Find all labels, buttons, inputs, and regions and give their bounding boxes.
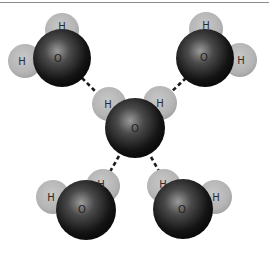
water-molecule-top-left: H H O [8,13,91,87]
hydrogen-label: H [202,20,210,31]
hydrogen-label: H [212,192,220,203]
oxygen-label: O [200,52,208,63]
oxygen-atom [56,180,116,240]
oxygen-label: O [131,123,139,134]
hydrogen-label: H [237,55,245,66]
water-molecule-bottom-left: H H O [36,169,120,240]
water-molecule-bottom-right: H H O [147,169,232,239]
oxygen-label: O [54,53,62,64]
hydrogen-label: H [97,179,105,190]
oxygen-label: O [78,204,86,215]
hydrogen-label: H [18,56,26,67]
hydrogen-label: H [104,99,112,110]
hydrogen-label: H [47,192,55,203]
oxygen-atom [33,29,91,87]
oxygen-label: O [178,204,186,215]
water-hydrogen-bond-diagram: H H O H H O H H O H H O H H O [0,0,269,257]
hydrogen-label: H [156,98,164,109]
hydrogen-label: H [159,179,167,190]
hydrogen-label: H [58,21,66,32]
water-molecule-top-right: H H O [176,12,257,87]
water-molecule-center: H H O [92,86,177,158]
